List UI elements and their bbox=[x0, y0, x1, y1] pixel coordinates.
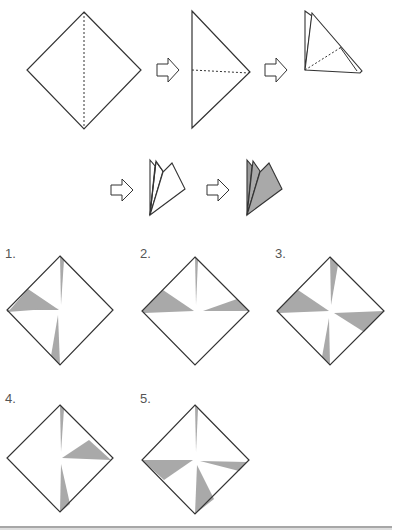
option-1-diagram[interactable] bbox=[7, 256, 113, 365]
arrow-right-icon bbox=[111, 179, 133, 201]
step-2-triangle bbox=[192, 11, 250, 128]
option-5-diagram[interactable] bbox=[142, 405, 249, 514]
option-5-label: 5. bbox=[140, 391, 151, 406]
option-1-label: 1. bbox=[5, 246, 16, 261]
option-2-label: 2. bbox=[140, 246, 151, 261]
step-4-fanned bbox=[150, 160, 185, 215]
option-2-diagram[interactable] bbox=[142, 257, 249, 365]
option-3-label: 3. bbox=[275, 246, 286, 261]
option-3-diagram[interactable] bbox=[277, 257, 384, 365]
arrow-right-icon bbox=[265, 58, 287, 82]
step-1-square bbox=[27, 12, 141, 129]
step-5-fanned-shaded bbox=[247, 160, 282, 215]
option-4-label: 4. bbox=[5, 391, 16, 406]
option-4-diagram[interactable] bbox=[7, 405, 113, 512]
arrow-right-icon bbox=[157, 58, 179, 82]
step-3-folded bbox=[305, 11, 362, 73]
folding-puzzle-diagram bbox=[0, 0, 397, 532]
arrow-right-icon bbox=[207, 179, 229, 201]
